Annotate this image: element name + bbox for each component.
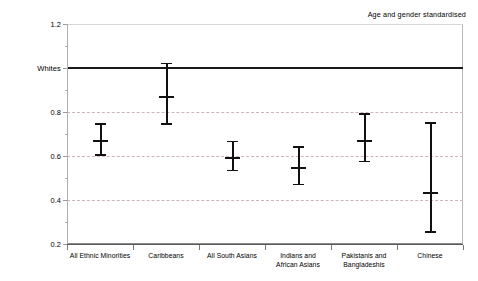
errorbar-point-marker <box>357 140 372 142</box>
errorbar-point-marker <box>423 192 438 194</box>
y-axis-label: 0.8 <box>50 108 61 117</box>
y-axis-label: 0.4 <box>50 196 61 205</box>
errorbar-lower-cap <box>161 123 172 125</box>
errorbar-stem <box>166 64 168 125</box>
errorbar-upper-cap <box>359 113 370 115</box>
errorbar-stem <box>298 147 300 184</box>
chart-annotation: Age and gender standardised <box>368 10 466 19</box>
y-axis-label: 0.2 <box>50 240 61 249</box>
errorbar-point-marker <box>225 157 240 159</box>
errorbar-upper-cap <box>95 123 106 125</box>
x-axis-tick <box>397 245 398 250</box>
errorbar-stem <box>232 142 234 171</box>
errorbar-lower-cap <box>227 170 238 172</box>
x-axis-category-label: Pakistanis and Bangladeshis <box>331 252 397 269</box>
x-axis-category-label: Indians and African Asians <box>265 252 331 269</box>
errorbar-stem <box>364 114 366 161</box>
reference-line-whites <box>67 67 463 69</box>
errorbar-lower-cap <box>95 154 106 156</box>
x-axis-tick <box>199 245 200 250</box>
chart-container: Age and gender standardised 1.2Whites0.8… <box>0 0 478 281</box>
gridline <box>67 200 463 201</box>
errorbar-lower-cap <box>359 161 370 163</box>
errorbar-lower-cap <box>425 231 436 233</box>
gridline <box>67 24 463 25</box>
plot-area <box>67 24 463 244</box>
errorbar-point-marker <box>291 167 306 169</box>
gridline <box>67 112 463 113</box>
x-axis-category-label: All South Asians <box>199 252 265 261</box>
y-axis-line <box>67 24 68 245</box>
errorbar-lower-cap <box>293 184 304 186</box>
errorbar-point-marker <box>93 140 108 142</box>
y-axis-label: 1.2 <box>50 20 61 29</box>
errorbar-point-marker <box>159 96 174 98</box>
x-axis-category-label: Caribbeans <box>133 252 199 261</box>
x-axis-tick <box>331 245 332 250</box>
x-axis-category-label: Chinese <box>397 252 463 261</box>
errorbar-upper-cap <box>425 122 436 124</box>
y-axis-label: 0.6 <box>50 152 61 161</box>
x-axis-category-label: All Ethnic Minorities <box>67 252 133 261</box>
y-axis-label: Whites <box>37 64 61 73</box>
errorbar-stem <box>430 123 432 232</box>
errorbar-upper-cap <box>293 146 304 148</box>
errorbar-upper-cap <box>227 141 238 143</box>
x-axis-tick <box>133 245 134 250</box>
x-axis-tick <box>463 245 464 250</box>
x-axis-tick <box>265 245 266 250</box>
x-axis-tick <box>67 245 68 250</box>
gridline <box>67 156 463 157</box>
errorbar-upper-cap <box>161 63 172 65</box>
